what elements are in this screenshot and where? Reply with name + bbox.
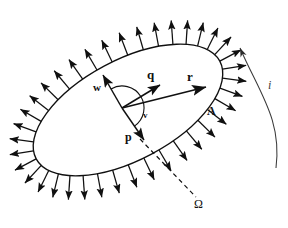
figure-canvas: q r w v p A i Ω [0, 0, 288, 228]
outward-normal-arrow [15, 159, 36, 170]
outward-normal-arrow [41, 83, 58, 100]
label-i: i [268, 79, 271, 91]
outward-normal-arrow [222, 65, 246, 69]
label-A: A [207, 105, 216, 117]
outward-normal-arrow [215, 37, 231, 55]
outward-normal-arrow [85, 49, 97, 70]
outward-normal-arrow [207, 28, 218, 49]
outward-normal-arrow [128, 165, 137, 187]
outward-normal-arrow [68, 176, 70, 200]
outward-normal-arrow [25, 165, 41, 183]
outward-normal-arrow [220, 50, 241, 61]
outward-normal-arrow [154, 23, 158, 47]
outward-normal-arrow [144, 158, 154, 180]
outward-normal-arrow [38, 171, 49, 192]
outward-normal-arrow [173, 141, 187, 161]
vector-group [103, 75, 206, 140]
vector-w [103, 75, 122, 108]
outward-normal-arrow [14, 124, 37, 132]
label-v: v [143, 111, 148, 120]
outward-normal-arrow [222, 78, 246, 81]
label-w: w [93, 82, 101, 93]
outward-normal-arrow [20, 109, 41, 121]
outward-normal-arrow [137, 27, 144, 50]
outward-normal-arrow [83, 176, 85, 200]
outward-normal-arrow [159, 150, 171, 171]
outward-normal-arrow [10, 151, 34, 155]
outward-normal-arrow [198, 23, 204, 46]
outward-normal-arrow [97, 174, 101, 198]
label-p: p [125, 131, 132, 143]
outward-normal-arrow [30, 96, 49, 111]
outward-normal-arrow [53, 174, 59, 197]
label-q: q [147, 68, 154, 81]
label-omega: Ω [194, 198, 203, 210]
outward-normal-arrow [220, 88, 243, 96]
outward-normal-arrow [119, 33, 128, 55]
outward-normal-arrow [113, 170, 120, 193]
outward-normal-arrow [69, 60, 83, 80]
outward-normal-arrow [171, 21, 173, 45]
outward-normal-arrow [215, 99, 236, 111]
outward-normal-arrow [102, 40, 112, 62]
outward-normal-arrow [10, 139, 34, 142]
outward-normal-arrow [198, 120, 215, 137]
label-r: r [187, 70, 193, 83]
vector-q [122, 85, 160, 108]
outward-normal-arrow [186, 131, 201, 149]
outward-normal-arrow [54, 71, 69, 89]
outward-normal-arrow [186, 20, 188, 44]
